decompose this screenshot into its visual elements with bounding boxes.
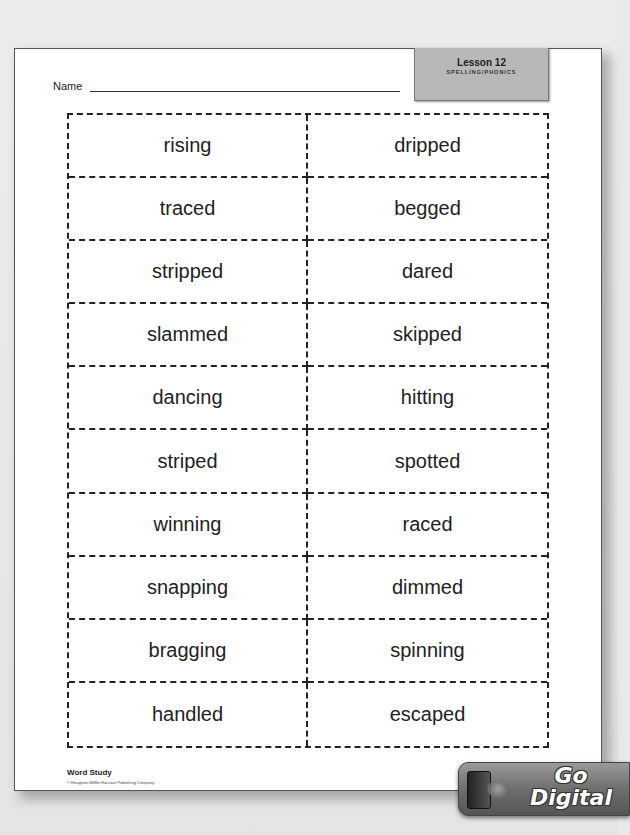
footer-copyright: © Houghton Mifflin Harcourt Publishing C… [67,780,154,785]
word-card: raced [308,494,547,557]
word-card: rising [69,115,308,178]
go-digital-line1: Go [521,765,621,787]
footer-section-title: Word Study [67,768,112,777]
word-card: stripped [69,241,308,304]
word-card: striped [69,430,308,493]
lesson-tab: Lesson 12 SPELLING/PHONICS [414,48,549,101]
word-card: bragging [69,620,308,683]
word-card: winning [69,494,308,557]
word-card: spinning [308,620,547,683]
word-card: dripped [308,115,547,178]
word-card: dared [308,241,547,304]
go-digital-label: Go Digital [521,765,621,809]
lesson-subtitle: SPELLING/PHONICS [415,69,548,75]
word-card: traced [69,178,308,241]
word-card: hitting [308,367,547,430]
word-card: snapping [69,557,308,620]
word-card: begged [308,178,547,241]
word-card: handled [69,683,308,746]
word-card: dancing [69,367,308,430]
word-card: spotted [308,430,547,493]
lesson-title: Lesson 12 [415,57,548,68]
go-digital-line2: Digital [521,787,621,809]
word-card: skipped [308,304,547,367]
word-card: escaped [308,683,547,746]
word-card-grid: rising dripped traced begged stripped da… [67,113,549,748]
name-label: Name [53,80,82,92]
word-card: slammed [69,304,308,367]
swirl-icon [487,781,509,797]
name-field-line [90,91,400,92]
go-digital-badge[interactable]: Go Digital [458,762,630,816]
word-card: dimmed [308,557,547,620]
